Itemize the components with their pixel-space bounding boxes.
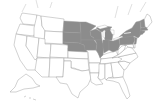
state-new-york — [119, 21, 141, 38]
us-map-svg — [0, 0, 159, 109]
state-maine — [144, 14, 152, 28]
state-alaska — [10, 74, 40, 92]
state-montana — [41, 16, 64, 32]
canada-borders — [22, 0, 146, 18]
state-arizona — [35, 58, 50, 77]
state-wyoming — [44, 31, 63, 44]
state-oregon — [16, 24, 36, 36]
state-new-mexico — [49, 58, 64, 77]
western-states — [14, 13, 68, 77]
state-rhode-island — [143, 31, 145, 33]
state-mississippi — [98, 64, 105, 80]
insets — [10, 74, 40, 100]
state-arkansas — [89, 63, 100, 73]
state-north-dakota — [63, 21, 81, 33]
state-connecticut — [140, 31, 143, 35]
state-florida — [106, 77, 130, 99]
state-indiana — [103, 40, 109, 53]
state-colorado — [50, 44, 68, 58]
state-hawaii — [24, 96, 36, 100]
us-map — [0, 0, 159, 109]
state-washington — [20, 13, 37, 25]
